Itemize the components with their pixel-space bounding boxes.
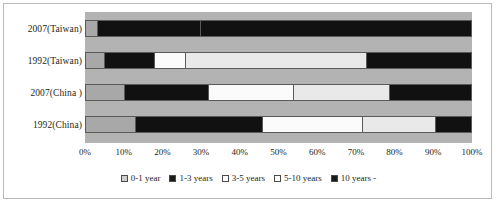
x-tick-label: 60% [309, 147, 326, 157]
bar-row [85, 84, 472, 101]
legend-label: 10 years - [341, 173, 377, 183]
category-label-2007-taiwan: 2007(Taiwan) [0, 24, 82, 34]
bar-segment [86, 85, 125, 100]
x-tick-label: 50% [270, 147, 287, 157]
x-tick-label: 80% [386, 147, 403, 157]
bar-segment [105, 53, 155, 68]
legend-item: 1-3 years [169, 173, 212, 183]
bar-row [85, 116, 472, 133]
bar-segment [367, 53, 471, 68]
bar-segment [436, 117, 471, 132]
bar-segment [86, 117, 136, 132]
legend-swatch-icon [331, 175, 338, 182]
bar-segment [86, 53, 105, 68]
x-tick-label: 40% [232, 147, 249, 157]
legend-label: 0-1 year [131, 173, 161, 183]
x-tick-label: 100% [462, 147, 483, 157]
bar-segment [136, 117, 263, 132]
legend-item: 10 years - [331, 173, 377, 183]
bar-segment [98, 21, 202, 36]
bar-segment [186, 53, 367, 68]
category-label-1992-china: 1992(China) [0, 120, 82, 130]
category-axis: 2007(Taiwan) 1992(Taiwan) 2007(China ) 1… [0, 12, 82, 143]
bar-segment [263, 117, 363, 132]
bar-segment [294, 85, 390, 100]
bar-segment [390, 85, 471, 100]
legend-label: 5-10 years [284, 173, 322, 183]
legend-label: 1-3 years [179, 173, 212, 183]
bar-segment [155, 53, 186, 68]
legend-item: 3-5 years [222, 173, 265, 183]
bar-segment [209, 85, 294, 100]
legend-swatch-icon [274, 175, 281, 182]
chart-figure: 2007(Taiwan) 1992(Taiwan) 2007(China ) 1… [0, 0, 497, 203]
chart-legend: 0-1 year1-3 years3-5 years5-10 years10 y… [0, 173, 497, 183]
bar-segment [363, 117, 436, 132]
category-label-2007-china: 2007(China ) [0, 88, 82, 98]
bar-segment [125, 85, 210, 100]
bar-row [85, 52, 472, 69]
x-axis-ticks: 0%10%20%30%40%50%60%70%80%90%100% [85, 147, 472, 161]
x-tick-label: 20% [154, 147, 171, 157]
legend-label: 3-5 years [232, 173, 265, 183]
legend-swatch-icon [222, 175, 229, 182]
legend-item: 5-10 years [274, 173, 322, 183]
bar-row [85, 20, 472, 37]
plot-area [85, 12, 472, 143]
bar-segment [86, 21, 98, 36]
x-tick-label: 30% [193, 147, 210, 157]
bar-segment [201, 21, 471, 36]
category-label-1992-taiwan: 1992(Taiwan) [0, 56, 82, 66]
legend-swatch-icon [121, 175, 128, 182]
x-tick-label: 70% [348, 147, 365, 157]
x-tick-label: 90% [425, 147, 442, 157]
legend-swatch-icon [169, 175, 176, 182]
legend-item: 0-1 year [121, 173, 161, 183]
x-tick-label: 0% [79, 147, 91, 157]
x-tick-label: 10% [115, 147, 132, 157]
